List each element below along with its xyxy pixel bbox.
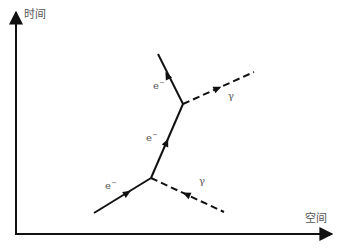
photon-out-label: γ [228, 91, 234, 101]
arrow-icon [181, 189, 191, 199]
electron-in-line [94, 178, 151, 213]
diagram-canvas [0, 0, 340, 251]
axes [15, 12, 332, 234]
feynman-diagram: 时间 空间 e− γ e− γ e− [0, 0, 340, 251]
space-axis-label: 空间 [305, 213, 327, 224]
arrow-icon [162, 137, 172, 147]
electron-internal-label: e− [146, 132, 158, 143]
arrow-icon [213, 84, 223, 94]
photon-in-label: γ [199, 176, 205, 186]
time-axis-label: 时间 [24, 9, 46, 20]
electron-out-label: e− [153, 80, 165, 91]
electron-in-label: e− [105, 180, 117, 191]
direction-arrows [122, 70, 223, 199]
